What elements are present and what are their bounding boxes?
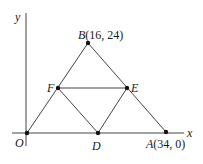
point-E — [125, 86, 129, 90]
label-E: E — [130, 81, 139, 95]
label-B: B(16, 24) — [78, 28, 123, 42]
label-F: F — [46, 81, 55, 95]
point-F — [56, 86, 60, 90]
label-A: A(34, 0) — [145, 137, 185, 151]
label-D: D — [91, 139, 101, 153]
origin-label: O — [15, 136, 24, 150]
point-O — [25, 131, 29, 135]
point-A — [164, 130, 168, 134]
segment-FD — [58, 88, 98, 133]
x-axis-label: x — [186, 126, 193, 140]
point-D — [96, 131, 100, 135]
coordinate-diagram: y x O B(16, 24) A(34, 0) F E D — [0, 0, 203, 164]
y-axis-label: y — [14, 10, 21, 24]
segment-DE — [98, 88, 127, 133]
